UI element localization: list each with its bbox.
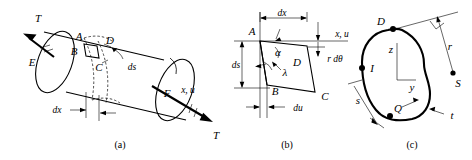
rdtheta-upper-arrowhead <box>316 35 320 41</box>
t-leader-arrowhead <box>429 107 435 112</box>
axes-zy <box>397 43 416 80</box>
torque-arrow-left <box>23 34 54 58</box>
lambda-leader-arrowhead <box>272 62 277 68</box>
point-q-marker <box>387 113 393 119</box>
label-c-axis-z: z <box>388 43 394 55</box>
du-arrowhead-right <box>268 105 274 110</box>
ds-dimension-b <box>240 41 266 88</box>
du-arrowhead-left <box>254 105 260 110</box>
label-c-point-s: S <box>455 77 461 89</box>
label-c-point-q: Q <box>394 102 402 114</box>
arc-length-s-indicator <box>348 80 384 128</box>
label-c-arc-s: s <box>356 94 360 106</box>
s-origin-tick <box>348 80 362 84</box>
alpha-leader-arrowhead <box>275 37 281 41</box>
dx-dimension <box>70 92 116 121</box>
label-dx: dx <box>53 105 63 115</box>
point-i-marker <box>359 65 365 71</box>
cylinder-wall-thickness <box>170 58 176 74</box>
label-b-corner-a: A <box>248 25 256 37</box>
label-element-b: B <box>71 45 78 57</box>
caption-panel-c: (c) <box>406 139 417 151</box>
dx-arrow-right-head <box>100 111 106 115</box>
label-c-thickness-t: t <box>450 109 454 121</box>
thickness-t-indicator <box>429 107 444 114</box>
panel-a-cylinder: T E A B C D ds dx F x, u T (a) <box>0 0 240 160</box>
q-pointer <box>402 97 419 107</box>
label-b-dx: dx <box>278 8 288 18</box>
deformed-quad-abcd <box>260 41 315 92</box>
label-c-point-d: D <box>376 15 385 27</box>
label-ds: ds <box>128 62 137 72</box>
label-element-d: D <box>105 34 114 46</box>
ds-arrowhead-bottom <box>240 82 245 88</box>
label-b-corner-b: B <box>272 85 279 97</box>
label-b-ds: ds <box>232 60 241 70</box>
label-c-radius-r: r <box>448 40 453 52</box>
quad-outline <box>260 41 315 92</box>
lambda-arc <box>264 62 272 70</box>
caption-panel-b: (b) <box>281 139 293 151</box>
label-end-e: E <box>28 56 36 68</box>
label-c-axis-y: y <box>409 81 415 93</box>
lambda-angle <box>264 62 281 71</box>
label-b-corner-c: C <box>321 90 329 102</box>
torque-left-arrowhead <box>23 34 37 42</box>
figure-root: T E A B C D ds dx F x, u T (a) <box>0 0 472 160</box>
label-b-alpha: α <box>275 46 281 58</box>
surface-element-abcd <box>84 44 99 58</box>
panel-c-cross-section: D I Q S z y r s t (c) <box>340 0 472 160</box>
label-b-corner-d: D <box>292 56 301 68</box>
label-torque-right: T <box>213 129 220 141</box>
axis-right-shaft <box>152 86 206 118</box>
caption-panel-a: (a) <box>114 139 125 151</box>
dashed-section-line-1 <box>84 38 94 100</box>
label-end-f: F <box>163 87 171 99</box>
label-b-lambda: λ <box>282 66 288 78</box>
rdtheta-dimension <box>308 22 325 57</box>
element-quad <box>84 44 99 58</box>
rdtheta-lower-arrowhead <box>316 51 320 57</box>
s-end-tick <box>370 118 384 128</box>
ds-leader-arrowhead <box>112 48 117 52</box>
dx-arrowhead-right <box>301 16 307 21</box>
tangent-line-at-d <box>395 12 458 29</box>
label-b-du: du <box>293 103 303 113</box>
ds-leader-arrowhead-b <box>255 64 261 68</box>
cylinder-near-end <box>28 26 82 98</box>
dx-arrow-left-head <box>80 108 86 112</box>
ds-arrowhead-top <box>240 41 245 47</box>
label-axis-xu: x, u <box>180 85 195 95</box>
label-c-point-i: I <box>369 62 375 74</box>
du-dimension <box>246 85 285 118</box>
c-tick <box>102 60 108 63</box>
q-pointer-arrowhead <box>413 97 419 102</box>
label-torque-left: T <box>35 12 42 24</box>
label-element-a: A <box>75 30 83 42</box>
dx-arrowhead-left <box>260 16 266 21</box>
label-element-c: C <box>95 61 103 73</box>
